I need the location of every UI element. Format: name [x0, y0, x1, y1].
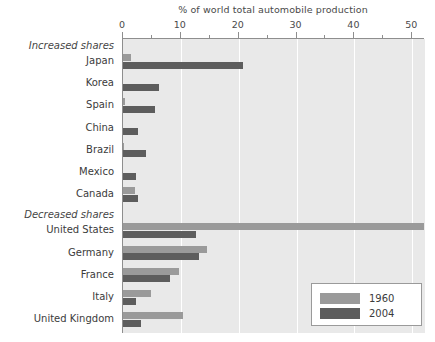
x-tick-label-50: 50: [405, 19, 417, 30]
category-label-united-states: United States: [46, 224, 114, 236]
automobile-production-chart: % of world total automobile production 0…: [0, 0, 435, 342]
bar-row-china: [123, 121, 425, 143]
bar-canada-2004: [123, 195, 138, 202]
category-label-italy: Italy: [92, 291, 114, 303]
bar-china-2004: [123, 128, 138, 135]
x-axis-tick-labels: 01020304050: [0, 19, 435, 31]
x-tick-label-40: 40: [347, 19, 359, 30]
bar-row-spain: [123, 98, 425, 120]
bar-united-kingdom-2004: [123, 320, 141, 327]
bar-row-brazil: [123, 143, 425, 165]
bar-brazil-1960: [123, 143, 124, 150]
section-label-increased-shares: Increased shares: [29, 40, 114, 52]
bar-row-korea: [123, 76, 425, 98]
bar-row-japan: [123, 54, 425, 76]
axis-title: % of world total automobile production: [122, 4, 424, 15]
bar-spain-2004: [123, 106, 155, 113]
bar-brazil-2004: [123, 150, 146, 157]
category-label-mexico: Mexico: [79, 166, 114, 178]
legend-entry-2004: 2004: [320, 306, 394, 321]
legend-entry-1960: 1960: [320, 291, 394, 306]
bar-united-states-1960: [123, 223, 424, 230]
bar-row-mexico: [123, 165, 425, 187]
category-label-france: France: [81, 269, 114, 281]
category-label-germany: Germany: [68, 247, 114, 259]
category-label-china: China: [85, 122, 114, 134]
bar-germany-1960: [123, 246, 207, 253]
section-label-decreased-shares: Decreased shares: [24, 209, 114, 221]
bar-japan-1960: [123, 54, 131, 61]
bar-spain-1960: [123, 98, 125, 105]
legend-swatch-2004: [320, 308, 360, 319]
bar-canada-1960: [123, 187, 135, 194]
category-label-korea: Korea: [86, 77, 114, 89]
legend-swatch-1960: [320, 293, 360, 304]
bar-united-states-2004: [123, 231, 196, 238]
bar-germany-2004: [123, 253, 199, 260]
bar-united-kingdom-1960: [123, 312, 183, 319]
bar-japan-2004: [123, 62, 243, 69]
bar-france-2004: [123, 275, 170, 282]
bar-mexico-2004: [123, 173, 136, 180]
legend-label-1960: 1960: [369, 293, 394, 304]
bar-italy-2004: [123, 298, 136, 305]
bar-row-canada: [123, 187, 425, 209]
legend-label-2004: 2004: [369, 308, 394, 319]
bar-france-1960: [123, 268, 179, 275]
chart-legend: 19602004: [311, 283, 422, 326]
bar-korea-2004: [123, 84, 159, 91]
category-label-japan: Japan: [86, 55, 114, 67]
x-tick-label-10: 10: [174, 19, 186, 30]
x-tick-label-30: 30: [290, 19, 302, 30]
x-tick-label-0: 0: [119, 19, 125, 30]
bar-row-united-states: [123, 223, 425, 245]
bar-row-germany: [123, 246, 425, 268]
x-tick-label-20: 20: [232, 19, 244, 30]
category-label-canada: Canada: [76, 188, 114, 200]
category-label-brazil: Brazil: [86, 144, 114, 156]
category-label-united-kingdom: United Kingdom: [34, 313, 114, 325]
category-labels: Increased sharesJapanKoreaSpainChinaBraz…: [0, 39, 118, 333]
bar-italy-1960: [123, 290, 151, 297]
category-label-spain: Spain: [86, 99, 114, 111]
